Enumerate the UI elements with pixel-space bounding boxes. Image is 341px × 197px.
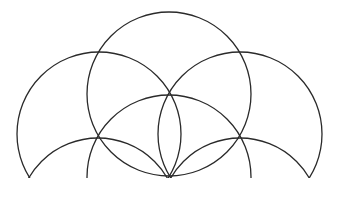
circles-diagram: [0, 0, 341, 197]
circle-lower-right: [160, 138, 320, 197]
circle-lower-left: [18, 138, 178, 197]
diagram-canvas: [0, 0, 341, 197]
circle-middle-center: [87, 95, 251, 197]
circle-group: [17, 12, 322, 197]
